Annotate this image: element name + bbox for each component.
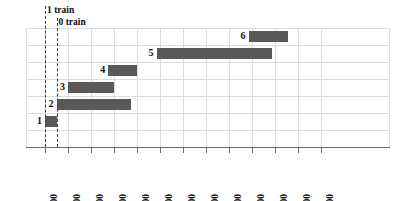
x-axis-tick-label: 10:00 bbox=[72, 194, 82, 201]
gridline-vertical bbox=[229, 28, 230, 147]
x-axis-tick bbox=[91, 147, 92, 153]
x-axis-tick-label: 20:00 bbox=[302, 194, 312, 201]
gridline-vertical bbox=[275, 28, 276, 147]
bar bbox=[45, 116, 57, 127]
bar bbox=[108, 65, 137, 76]
gridline-horizontal bbox=[26, 113, 390, 114]
train-marker-label: 0 train bbox=[59, 17, 86, 27]
x-axis-tick-label: 14:00 bbox=[164, 194, 174, 201]
bar bbox=[68, 82, 114, 93]
chart-canvas: 9:0010:0011:0012:0013:0014:0015:0016:001… bbox=[0, 0, 420, 201]
gridline-vertical bbox=[160, 28, 161, 147]
x-axis-tick-label: 15:00 bbox=[187, 194, 197, 201]
bar-label: 6 bbox=[235, 30, 246, 41]
bar-label: 5 bbox=[143, 47, 154, 58]
gridline-horizontal bbox=[26, 28, 390, 29]
bar bbox=[157, 48, 272, 59]
x-axis-tick-label: 17:00 bbox=[233, 194, 243, 201]
x-axis-tick-label: 9:00 bbox=[49, 194, 59, 201]
x-axis-tick-label: 11:00 bbox=[95, 194, 105, 201]
bar bbox=[249, 31, 288, 42]
gridline-horizontal bbox=[26, 130, 390, 131]
bar bbox=[57, 99, 132, 110]
train-marker-line bbox=[57, 18, 58, 147]
gridline-vertical bbox=[137, 28, 138, 147]
gridline-horizontal bbox=[26, 79, 390, 80]
x-axis-tick-label: 13:00 bbox=[141, 194, 151, 201]
gridline-vertical bbox=[183, 28, 184, 147]
x-axis-line bbox=[26, 147, 390, 148]
gridline-vertical bbox=[298, 28, 299, 147]
gridline-horizontal bbox=[26, 62, 390, 63]
gridline-vertical bbox=[321, 28, 322, 147]
x-axis-tick bbox=[229, 147, 230, 153]
x-axis-tick-label: 19:00 bbox=[279, 194, 289, 201]
x-axis-tick bbox=[298, 147, 299, 153]
x-axis-tick bbox=[160, 147, 161, 153]
gridline-horizontal bbox=[26, 45, 390, 46]
bar-label: 1 bbox=[31, 115, 42, 126]
x-axis-tick bbox=[137, 147, 138, 153]
x-axis-tick bbox=[206, 147, 207, 153]
gridline-vertical bbox=[26, 28, 27, 147]
bar-label: 4 bbox=[94, 64, 105, 75]
x-axis-tick bbox=[68, 147, 69, 153]
train-marker-line bbox=[45, 6, 46, 147]
x-axis-tick bbox=[321, 147, 322, 153]
x-axis-tick bbox=[45, 147, 46, 153]
x-axis-tick bbox=[275, 147, 276, 153]
x-axis-tick-label: 16:00 bbox=[210, 194, 220, 201]
x-axis-tick bbox=[252, 147, 253, 153]
x-axis-tick-label: 21:00 bbox=[325, 194, 335, 201]
gridline-vertical bbox=[252, 28, 253, 147]
x-axis-tick-label: 18:00 bbox=[256, 194, 266, 201]
x-axis-tick bbox=[183, 147, 184, 153]
x-axis-tick bbox=[114, 147, 115, 153]
gridline-vertical bbox=[206, 28, 207, 147]
x-axis-tick-label: 12:00 bbox=[118, 194, 128, 201]
train-marker-label: 1 train bbox=[47, 5, 74, 15]
gridline-horizontal bbox=[26, 96, 390, 97]
gridline-vertical bbox=[389, 28, 390, 147]
gridline-vertical bbox=[114, 28, 115, 147]
